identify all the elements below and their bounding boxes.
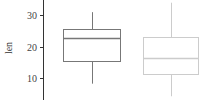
y-tick-label: 10	[17, 74, 37, 84]
box-1	[64, 12, 121, 84]
iqr-box	[64, 30, 121, 62]
y-tick-label: 30	[17, 11, 37, 21]
y-axis-label: len	[1, 40, 17, 56]
iqr-box	[144, 38, 199, 75]
box-2	[144, 3, 199, 97]
y-axis-ticks	[40, 16, 44, 79]
box-group	[64, 3, 199, 97]
y-tick-label: 20	[17, 43, 37, 53]
